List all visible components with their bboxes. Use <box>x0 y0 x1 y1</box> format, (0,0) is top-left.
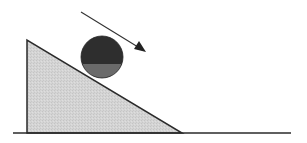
diagram-canvas: Ball on inclined plane <box>0 0 307 143</box>
incline-diagram <box>0 0 307 143</box>
